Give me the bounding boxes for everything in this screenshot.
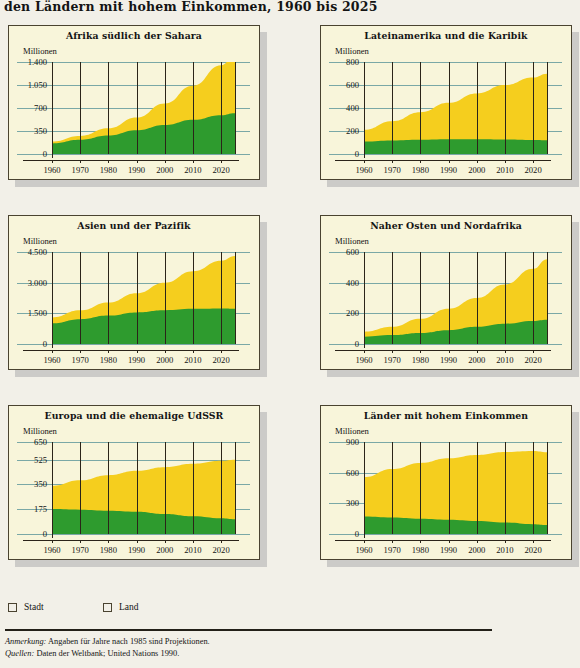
x-axis-tick (420, 350, 421, 353)
legend-item-rural: Land (103, 602, 139, 612)
x-axis-tick (477, 350, 478, 353)
y-axis-tick-label: 300 (346, 498, 359, 508)
x-axis-tick (392, 160, 393, 163)
x-axis-tick (108, 540, 109, 543)
x-axis-tick (505, 540, 506, 543)
y-axis-tick-label: 175 (34, 504, 47, 514)
x-axis-line (23, 350, 239, 351)
x-axis-tick (364, 350, 365, 353)
gridline-vertical (52, 252, 53, 344)
x-axis-tick-label: 2000 (156, 355, 173, 365)
x-axis-tick-label: 1970 (72, 355, 89, 365)
y-axis-tick-label: 400 (346, 103, 359, 113)
x-axis-tick (108, 350, 109, 353)
y-axis-tick-label: 0 (355, 529, 359, 539)
gridline-vertical (420, 442, 421, 534)
figure-title: den Ländern mit hohem Einkommen, 1960 bi… (4, 0, 378, 14)
gridline-vertical (137, 442, 138, 534)
x-axis-tick (52, 540, 53, 543)
gridline-vertical (505, 442, 506, 534)
chart-panel-4: Europa und die ehemalige UdSSRMillionen0… (8, 405, 260, 560)
gridline-vertical (80, 252, 81, 344)
y-axis-tick-label: 0 (43, 149, 47, 159)
x-axis-tick (364, 540, 365, 543)
chart-title: Asien und der Pazifik (9, 220, 259, 231)
chart-panel-3: Naher Osten und NordafrikaMillionen02004… (320, 215, 572, 370)
gridline-vertical-end (235, 442, 236, 534)
x-axis-tick (221, 350, 222, 353)
chart-panel: Naher Osten und NordafrikaMillionen02004… (320, 215, 572, 370)
x-axis-tick-label: 1960 (43, 545, 60, 555)
chart-row-1: Afrika südlich der SaharaMillionen035070… (0, 25, 580, 215)
gridline-vertical (449, 62, 450, 154)
x-axis-tick-label: 1970 (72, 165, 89, 175)
gridline-vertical (449, 442, 450, 534)
footnote-note: Anmerkung: Angaben für Jahre nach 1985 s… (5, 636, 210, 648)
y-axis-tick-label: 600 (346, 468, 359, 478)
gridline-vertical (137, 252, 138, 344)
y-axis-tick-label: 400 (346, 278, 359, 288)
gridline-vertical (533, 252, 534, 344)
y-axis-tick-label: 600 (346, 247, 359, 257)
x-axis-tick-label: 2000 (156, 545, 173, 555)
chart-panel-5: Länder mit hohem EinkommenMillionen03006… (320, 405, 572, 560)
gridline-vertical-end (547, 62, 548, 154)
x-axis-line (335, 350, 551, 351)
y-axis-tick-label: 1.500 (28, 308, 47, 318)
footnote-note-text: Angaben für Jahre nach 1985 sind Projekt… (46, 637, 209, 646)
x-axis-tick-label: 2010 (496, 165, 513, 175)
gridline-vertical (392, 62, 393, 154)
footnote-source-text: Daten der Weltbank; United Nations 1990. (34, 649, 179, 658)
gridline-vertical (221, 442, 222, 534)
x-axis-tick-label: 2020 (212, 165, 229, 175)
y-axis-tick-label: 525 (34, 455, 47, 465)
gridline-vertical (80, 62, 81, 154)
gridline-vertical (80, 442, 81, 534)
gridline-vertical (221, 62, 222, 154)
y-axis-labels: 01.5003.0004.500 (9, 252, 47, 344)
chart-panel: Länder mit hohem EinkommenMillionen03006… (320, 405, 572, 560)
x-axis-tick (165, 160, 166, 163)
y-axis-tick-label: 3.000 (28, 278, 47, 288)
x-axis-tick-label: 1980 (412, 165, 429, 175)
x-axis-tick (533, 350, 534, 353)
y-axis-tick-label: 600 (346, 80, 359, 90)
x-axis-tick (477, 160, 478, 163)
gridline-vertical (477, 252, 478, 344)
x-axis-tick (449, 540, 450, 543)
gridline-vertical (392, 252, 393, 344)
y-axis-tick-label: 900 (346, 437, 359, 447)
gridline-vertical (392, 442, 393, 534)
x-axis-tick (392, 540, 393, 543)
x-axis-tick (505, 160, 506, 163)
legend-label-urban: Stadt (24, 602, 44, 612)
x-axis-tick (137, 350, 138, 353)
x-axis-tick-label: 1990 (128, 355, 145, 365)
x-axis-tick-label: 1980 (100, 545, 117, 555)
y-axis-unit: Millionen (335, 426, 369, 436)
gridline-vertical (193, 252, 194, 344)
x-axis-tick (420, 160, 421, 163)
y-axis-tick-label: 0 (355, 149, 359, 159)
y-axis-labels: 0200400600 (321, 252, 359, 344)
gridline-vertical (533, 62, 534, 154)
footnote-source-label: Quellen: (5, 649, 34, 658)
x-axis-tick (221, 540, 222, 543)
chart-title: Naher Osten und Nordafrika (321, 220, 571, 231)
gridline-vertical (420, 252, 421, 344)
gridline-vertical (505, 62, 506, 154)
chart-title: Europa und die ehemalige UdSSR (9, 410, 259, 421)
gridline-vertical (108, 442, 109, 534)
footnote-source: Quellen: Daten der Weltbank; United Nati… (5, 648, 210, 660)
y-axis-tick-label: 800 (346, 57, 359, 67)
x-axis-tick (52, 160, 53, 163)
y-axis-tick-label: 200 (346, 308, 359, 318)
x-axis-tick (193, 540, 194, 543)
x-axis-tick-label: 1990 (128, 545, 145, 555)
x-axis-tick-label: 1990 (440, 545, 457, 555)
x-axis-tick (80, 350, 81, 353)
x-axis-tick-label: 1990 (128, 165, 145, 175)
gridline-vertical (165, 252, 166, 344)
chart-title: Afrika südlich der Sahara (9, 30, 259, 41)
gridline-vertical (165, 442, 166, 534)
